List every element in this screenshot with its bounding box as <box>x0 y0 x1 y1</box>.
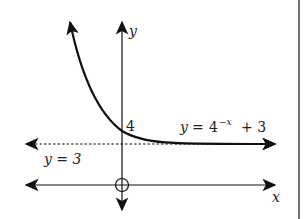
svg-text:4: 4 <box>209 119 218 135</box>
y-intercept-label: 4 <box>126 118 135 134</box>
y-axis-label: y <box>128 23 138 39</box>
svg-text:y: y <box>179 119 189 135</box>
function-label: y = 4 −x + 3 <box>179 117 266 135</box>
exponential-graph: y x 4 y = 4 −x + 3 y = 3 <box>0 0 306 219</box>
svg-text:+ 3: + 3 <box>241 119 266 135</box>
asymptote-label: y = 3 <box>43 151 82 167</box>
svg-text:=: = <box>192 119 204 135</box>
x-axis-label: x <box>272 189 280 205</box>
svg-text:−x: −x <box>219 117 232 127</box>
